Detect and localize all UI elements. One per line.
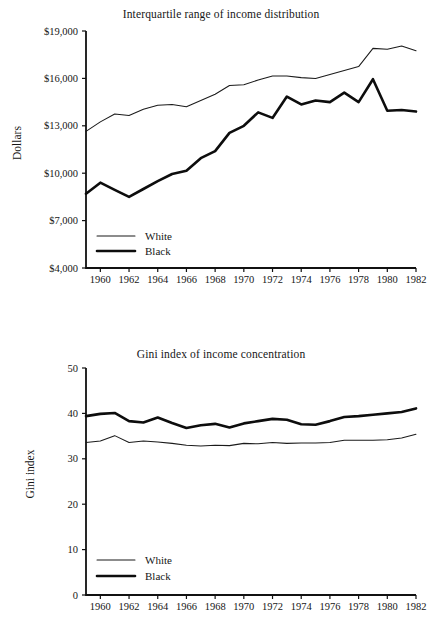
legend-label-white: White	[145, 230, 172, 242]
y-tick-label: $16,000	[44, 73, 78, 84]
x-tick-label: 1972	[262, 601, 283, 612]
x-tick-label: 1976	[319, 601, 340, 612]
x-tick-label: 1980	[377, 601, 398, 612]
y-tick-label: 50	[68, 363, 79, 374]
x-tick-label: 1962	[119, 601, 140, 612]
y-tick-label: 10	[68, 544, 79, 555]
x-tick-label: 1968	[205, 274, 226, 285]
x-tick-label: 1962	[119, 274, 140, 285]
plot-area-interquartile: $4,000$7,000$10,000$13,000$16,000$19,000…	[0, 0, 442, 320]
x-tick-label: 1978	[348, 601, 369, 612]
series-line-white	[86, 434, 416, 446]
x-tick-label: 1964	[147, 274, 169, 285]
x-tick-label: 1966	[176, 274, 197, 285]
axis-lines	[86, 31, 416, 268]
y-tick-label: 40	[68, 408, 79, 419]
legend-label-black: Black	[145, 570, 171, 582]
x-tick-label: 1974	[291, 601, 313, 612]
x-tick-label: 1974	[291, 274, 313, 285]
x-tick-label: 1976	[319, 274, 340, 285]
y-tick-label: $13,000	[44, 120, 78, 131]
y-tick-label: $7,000	[49, 215, 78, 226]
plot-area-gini: 0102030405019601962196419661968197019721…	[0, 320, 442, 631]
chart-interquartile-range: Interquartile range of income distributi…	[0, 0, 442, 320]
x-tick-label: 1968	[205, 601, 226, 612]
legend-label-white: White	[145, 554, 172, 566]
y-tick-label: $4,000	[49, 263, 78, 274]
x-tick-label: 1964	[147, 601, 169, 612]
legend-label-black: Black	[145, 245, 171, 257]
x-tick-label: 1978	[348, 274, 369, 285]
x-tick-label: 1960	[90, 601, 111, 612]
series-line-black	[86, 408, 416, 428]
x-tick-label: 1982	[406, 601, 427, 612]
y-tick-label: $19,000	[44, 26, 78, 37]
y-tick-label: 0	[73, 590, 78, 601]
x-tick-label: 1982	[406, 274, 427, 285]
y-tick-label: 30	[68, 453, 79, 464]
x-tick-label: 1980	[377, 274, 398, 285]
x-tick-label: 1970	[233, 274, 254, 285]
x-tick-label: 1972	[262, 274, 283, 285]
chart-gini-index: Gini index of income concentration Gini …	[0, 320, 442, 631]
x-tick-label: 1970	[233, 601, 254, 612]
x-tick-label: 1966	[176, 601, 197, 612]
series-line-black	[86, 79, 416, 197]
axis-lines	[86, 368, 416, 595]
y-tick-label: $10,000	[44, 168, 78, 179]
y-tick-label: 20	[68, 499, 79, 510]
x-tick-label: 1960	[90, 274, 111, 285]
